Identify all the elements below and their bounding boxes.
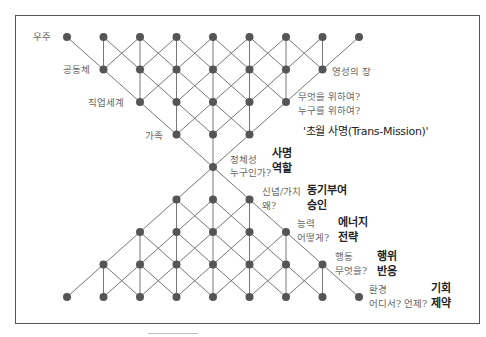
lattice-node [282,66,290,74]
lattice-node [246,261,254,269]
lattice-node [246,196,254,204]
lattice-node [209,33,217,41]
lattice-edge [250,102,287,135]
lattice-node [173,261,181,269]
lattice-node [173,131,181,139]
lattice-node [173,293,181,301]
lattice-node [209,98,217,106]
level-beliefs-label: 신념/가치 [262,185,301,198]
lattice-node [136,66,144,74]
lattice-node [209,228,217,236]
lattice-node [246,293,254,301]
level-behavior-label: 행동 [335,250,353,263]
lattice-edge [104,232,141,265]
lattice-node [319,261,327,269]
lattice-node [319,66,327,74]
lattice-node [246,98,254,106]
lattice-node [173,98,181,106]
lattice-node [209,196,217,204]
lattice-node [173,66,181,74]
lattice-node [63,293,71,301]
label-community: 공동체 [63,63,90,76]
level-capabilities-label: 능력 [297,217,315,230]
level-identity-key-2: 역할 [272,161,292,176]
label-universe: 우주 [33,30,51,43]
lattice-node [173,228,181,236]
lattice-node [136,98,144,106]
lattice-node [173,33,181,41]
lattice-node [209,293,217,301]
label-family: 가족 [145,129,163,142]
purpose-question-what: 무엇을 위하여? [298,90,360,103]
lattice-node [209,163,217,171]
lattice-node [63,33,71,41]
lattice-node [136,33,144,41]
lattice-edge [177,167,214,200]
lattice-node [100,261,108,269]
lattice-node [246,228,254,236]
lattice-node [209,261,217,269]
level-environment-label: 환경 [369,283,387,296]
level-capabilities-key-2: 전략 [338,230,358,245]
diagram-title: '초월 사명(Trans-Mission)' [303,122,428,138]
level-behavior-question: 무엇을? [335,264,367,277]
lattice-node [282,228,290,236]
level-identity-key-1: 사명 [272,146,292,161]
lattice-node [282,98,290,106]
label-work-world: 직업세계 [88,96,124,109]
level-beliefs-key-2: 승인 [307,198,327,213]
purpose-question-whom: 누구를 위하여? [298,104,360,117]
lattice-node [100,293,108,301]
lattice-edge [67,265,104,298]
lattice-edge [177,135,214,168]
label-spiritual-field: 영성의 장 [332,65,371,78]
level-identity-question: 누구인가? [230,166,271,179]
level-beliefs-question: 왜? [262,199,276,212]
lattice-node [246,131,254,139]
level-beliefs-key-1: 동기부여 [307,183,347,198]
level-behavior-key-2: 반응 [377,264,397,279]
level-environment-question: 어디서? 언제? [369,297,427,310]
lattice-node [319,33,327,41]
level-capabilities-key-1: 에너지 [338,215,368,230]
lattice-edge [140,200,177,233]
lattice-node [246,33,254,41]
lattice-node [246,66,254,74]
lattice-node [136,293,144,301]
lattice-node [100,66,108,74]
level-identity-label: 정체성 [230,153,257,166]
level-capabilities-question: 어떻게? [297,231,329,244]
lattice-node [136,261,144,269]
level-environment-key-2: 제약 [431,296,451,311]
lattice-node [282,293,290,301]
level-environment-key-1: 기회 [431,281,451,296]
lattice-node [173,196,181,204]
lattice-node [355,33,363,41]
lattice-node [319,293,327,301]
lattice-node [355,293,363,301]
lattice-node [282,33,290,41]
lattice-node [209,131,217,139]
level-behavior-key-1: 행위 [377,249,397,264]
lattice-node [100,33,108,41]
lattice-node [209,66,217,74]
lattice-node [136,228,144,236]
lattice-node [282,261,290,269]
